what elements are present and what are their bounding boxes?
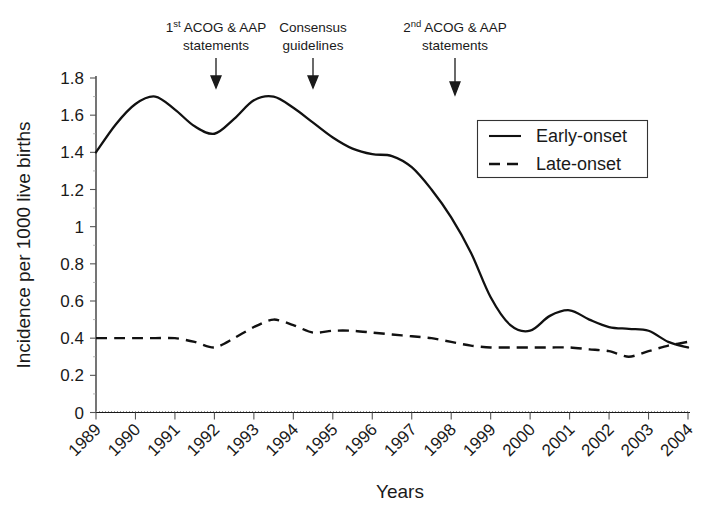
x-tick-label: 1990 <box>104 420 144 460</box>
y-tick-label: 1 <box>75 218 84 237</box>
annotation-consensus-guidelines-line2: guidelines <box>283 38 344 53</box>
annotation-arrow-icon <box>450 58 460 95</box>
y-axis: 00.20.40.60.811.21.41.61.8 <box>60 69 96 423</box>
x-tick-label: 2002 <box>578 420 618 460</box>
x-tick-label: 1992 <box>183 420 223 460</box>
chart-canvas: 1st ACOG & AAP statements Consensus guid… <box>0 0 714 526</box>
annotation-first-acog-aap-line2: statements <box>183 38 249 53</box>
x-tick-label: 2000 <box>499 420 539 460</box>
incidence-line-chart-figure: 1st ACOG & AAP statements Consensus guid… <box>0 0 714 526</box>
x-tick-label: 1997 <box>380 420 420 460</box>
x-tick-label: 1998 <box>420 420 460 460</box>
annotation-second-acog-aap-line1: 2nd ACOG & AAP <box>403 18 507 35</box>
y-tick-label: 0.2 <box>60 366 84 385</box>
y-axis-tick-labels: 00.20.40.60.811.21.41.61.8 <box>60 69 84 423</box>
x-tick-label: 1994 <box>262 420 302 460</box>
series-late-onset-line <box>96 320 688 357</box>
annotation-consensus-guidelines: Consensus guidelines <box>279 20 347 88</box>
x-axis-tick-labels: 1989199019911992199319941995199619971998… <box>65 420 697 460</box>
y-tick-label: 1.8 <box>60 69 84 88</box>
y-tick-label: 0.4 <box>60 329 84 348</box>
annotation-second-acog-aap-line2: statements <box>422 38 488 53</box>
y-tick-label: 0 <box>75 404 84 423</box>
x-tick-label: 1996 <box>341 420 381 460</box>
legend-label-early-onset: Early-onset <box>536 126 627 146</box>
annotation-arrow-icon <box>308 58 318 88</box>
x-tick-label: 1993 <box>223 420 263 460</box>
annotation-first-acog-aap: 1st ACOG & AAP statements <box>166 18 266 88</box>
x-tick-label: 1999 <box>459 420 499 460</box>
y-tick-label: 0.6 <box>60 292 84 311</box>
x-tick-label: 2004 <box>657 420 697 460</box>
y-axis-title: Incidence per 1000 live births <box>13 121 34 368</box>
annotation-second-acog-aap: 2nd ACOG & AAP statements <box>403 18 507 95</box>
x-axis-title: Years <box>376 481 424 502</box>
y-tick-label: 0.8 <box>60 255 84 274</box>
x-tick-label: 1995 <box>301 420 341 460</box>
x-tick-label: 1991 <box>144 420 184 460</box>
x-tick-label: 1989 <box>65 420 105 460</box>
legend-label-late-onset: Late-onset <box>536 154 621 174</box>
x-tick-label: 2003 <box>617 420 657 460</box>
legend: Early-onset Late-onset <box>478 121 648 178</box>
x-axis: 1989199019911992199319941995199619971998… <box>65 412 697 461</box>
y-axis-ticks <box>90 78 96 413</box>
y-tick-label: 1.4 <box>60 143 84 162</box>
annotation-first-acog-aap-line1: 1st ACOG & AAP <box>166 18 266 35</box>
y-tick-label: 1.6 <box>60 106 84 125</box>
annotation-arrow-icon <box>211 58 221 88</box>
annotation-consensus-guidelines-line1: Consensus <box>279 20 347 35</box>
y-tick-label: 1.2 <box>60 181 84 200</box>
x-tick-label: 2001 <box>538 420 578 460</box>
